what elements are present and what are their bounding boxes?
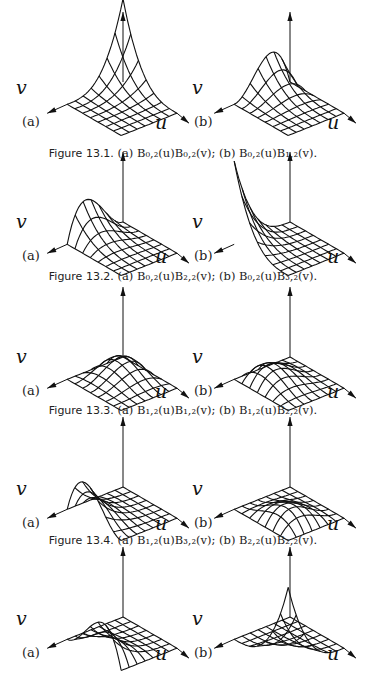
axis-label-u: u: [327, 111, 339, 133]
axis-label-v: v: [192, 607, 203, 629]
figure-13-2-panel-a: v u (a): [0, 150, 183, 280]
figure-13-3-panel-a: v u (a): [0, 285, 183, 415]
panel-label: (a): [22, 645, 40, 660]
axis-label-v: v: [192, 76, 203, 98]
axis-label-u: u: [327, 512, 339, 534]
figure-13-3-panel-b: v u (b): [167, 285, 350, 415]
figure-13-3: v u (a) v u (b) Figure 13.3. (a) B₁,₂(u)…: [0, 285, 366, 425]
axis-label-u: u: [327, 380, 339, 402]
figure-13-4-panel-b: v u (b): [167, 415, 350, 545]
panel-label: (b): [194, 114, 212, 129]
figure-13-2-panel-b: v u (b): [167, 150, 350, 280]
axis-label-u: u: [155, 380, 167, 402]
figure-13-1-panel-b: v u (b): [167, 10, 350, 140]
figure-13-2: v u (a) v u (b) Figure 13.2. (a) B₀,₂(u)…: [0, 150, 366, 290]
axis-label-v: v: [192, 210, 203, 232]
axis-label-u: u: [327, 642, 339, 664]
axis-label-u: u: [155, 245, 167, 267]
panel-label: (a): [22, 383, 40, 398]
axis-label-v: v: [16, 76, 27, 98]
axis-label-v: v: [192, 345, 203, 367]
figure-13-1-panel-a: v u (a): [0, 10, 183, 140]
panel-label: (a): [22, 114, 40, 129]
panel-label: (b): [194, 515, 212, 530]
axis-label-u: u: [155, 111, 167, 133]
panel-label: (a): [22, 515, 40, 530]
axis-label-v: v: [16, 345, 27, 367]
panel-label: (b): [194, 645, 212, 660]
figure-caption: Figure 13.2. (a) B₀,₂(u)B₂,₂(v); (b) B₀,…: [0, 269, 366, 283]
figure-13-5: v u (a) v u (b): [0, 545, 366, 669]
caption-text: (a) B₀,₂(u)B₂,₂(v); (b) B₀,₂(u)B₃,₂(v).: [118, 269, 318, 283]
axis-label-u: u: [155, 512, 167, 534]
figure-13-5-panel-b: v u (b): [167, 545, 350, 675]
figure-13-4: v u (a) v u (b) Figure 13.4. (a) B₁,₂(u)…: [0, 415, 366, 555]
axis-label-u: u: [327, 245, 339, 267]
panel-label: (b): [194, 248, 212, 263]
axis-label-v: v: [16, 477, 27, 499]
axis-label-u: u: [155, 642, 167, 664]
panel-label: (b): [194, 383, 212, 398]
figure-13-5-panel-a: v u (a): [0, 545, 183, 675]
axis-label-v: v: [16, 210, 27, 232]
caption-label: Figure 13.2.: [49, 270, 114, 283]
axis-label-v: v: [16, 607, 27, 629]
panel-label: (a): [22, 248, 40, 263]
figure-13-4-panel-a: v u (a): [0, 415, 183, 545]
axis-label-v: v: [192, 477, 203, 499]
figure-13-1: v u (a) v u (b) Figure 13.1. (a) B₀,₂(u)…: [0, 0, 366, 166]
